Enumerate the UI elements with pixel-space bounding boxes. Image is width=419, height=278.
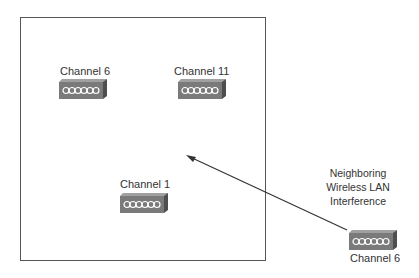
interference-note: Neighboring Wireless LAN Interference (318, 166, 398, 208)
interference-note-line-3: Interference (318, 194, 398, 208)
interference-note-line-1: Neighboring (318, 166, 398, 180)
interference-note-line-2: Wireless LAN (318, 180, 398, 194)
external-access-point-icon (349, 230, 397, 250)
external-ap-label: Channel 6 (350, 252, 400, 264)
